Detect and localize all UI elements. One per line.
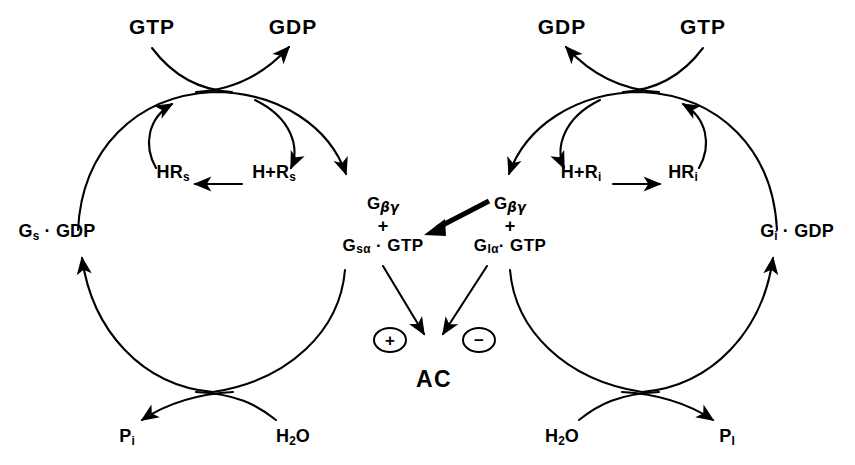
left-water-label: H2O [276, 427, 310, 448]
left-water-input-arc [196, 392, 276, 420]
left-inactive-g-label: Gs · GDP [18, 222, 95, 243]
right-main-arc-upper [509, 92, 777, 230]
left-plus-sign: + [343, 216, 424, 235]
g-protein-cycle-diagram: GTP GDP HRs H+Rs Gs · GDP Gβγ + Gsα · GT… [0, 0, 855, 465]
right-bound-receptor-label: HRi [668, 163, 698, 184]
arrow-gia-inhibits-ac [443, 266, 487, 334]
left-gtp-input-arc [152, 48, 232, 92]
right-gdp-output-arc [566, 47, 659, 92]
stimulation-sign-badge: + [373, 327, 407, 353]
right-alpha-gtp-label: GIα· GTP [474, 236, 546, 255]
right-free-receptor-label: H+Ri [561, 163, 601, 184]
right-water-input-arc [579, 392, 659, 420]
left-gtp-label: GTP [129, 16, 175, 37]
left-active-g-complex: Gβγ + Gsα · GTP [343, 195, 424, 256]
arrow-gsa-activates-ac [383, 266, 424, 334]
left-phosphate-label: Pi [119, 427, 135, 448]
right-inactive-g-label: Gi · GDP [760, 222, 834, 243]
right-phosphate-label: PI [719, 427, 735, 448]
right-plus-sign: + [474, 216, 546, 235]
left-phosphate-output-arc [142, 392, 233, 420]
right-gtp-input-arc [623, 48, 703, 92]
left-main-arc-lower [82, 258, 345, 392]
left-gdp-label: GDP [269, 16, 318, 37]
left-alpha-gtp-label: Gsα · GTP [343, 236, 424, 255]
left-bound-receptor-label: HRs [156, 163, 189, 184]
adenylyl-cyclase-label: AC [416, 368, 452, 391]
right-active-g-complex: Gβγ + GIα· GTP [474, 195, 546, 256]
right-beta-gamma-label: Gβγ [474, 195, 546, 216]
left-gdp-output-arc [196, 47, 289, 92]
right-water-label: H2O [545, 427, 579, 448]
right-gdp-label: GDP [538, 16, 587, 37]
diagram-canvas [0, 0, 855, 465]
right-phosphate-output-arc [622, 392, 713, 420]
left-main-arc-upper [78, 92, 346, 230]
left-inner-arc-from-bound-receptor [149, 104, 172, 168]
right-inner-arc-from-bound-receptor [683, 104, 706, 168]
right-gtp-label: GTP [680, 16, 726, 37]
inhibition-sign-badge: − [462, 327, 496, 353]
left-beta-gamma-label: Gβγ [343, 195, 424, 216]
right-main-arc-lower [510, 258, 773, 392]
left-free-receptor-label: H+Rs [252, 163, 296, 184]
